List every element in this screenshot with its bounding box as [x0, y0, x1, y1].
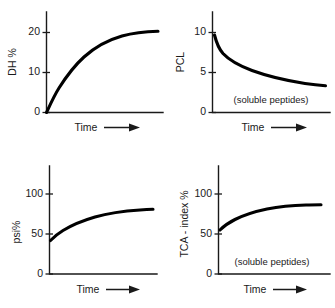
data-curve-dh [47, 31, 159, 112]
x-axis-title-pcl: Time [242, 121, 265, 133]
y-axis-title-tca: TCA - index % [178, 190, 190, 257]
y-axis-title-psi: psi% [10, 221, 22, 244]
y-tick-label: 0 [34, 105, 40, 117]
y-tick-label: 10 [28, 65, 40, 77]
y-tick-label: 100 [194, 187, 212, 199]
y-tick-label: 5 [200, 65, 206, 77]
chart-panel-dh: 0 10 20 DH % Time [0, 0, 167, 154]
chart-svg-dh: 0 10 20 DH % Time [0, 0, 167, 154]
chart-panel-tca: 0 50 100 TCA - index % (soluble peptides… [168, 154, 335, 308]
x-axis-arrow-pcl [271, 124, 307, 132]
y-tick-label: 0 [206, 267, 212, 279]
chart-svg-psi: 0 50 100 psi% Time [0, 154, 167, 308]
chart-panel-pcl: 0 5 10 PCL (soluble peptides) Time [168, 0, 335, 154]
x-axis-title-psi: Time [77, 283, 100, 295]
y-tick-label: 0 [200, 105, 206, 117]
x-axis-arrow-tca [273, 286, 307, 294]
chart-svg-tca: 0 50 100 TCA - index % (soluble peptides… [168, 154, 335, 308]
y-axis-title-dh: DH % [6, 48, 18, 75]
figure-panel-grid: 0 10 20 DH % Time 0 5 10 PCL (so [0, 0, 335, 308]
y-axis-title-pcl: PCL [174, 52, 186, 73]
axes-dh [47, 12, 164, 113]
axes-psi [50, 166, 158, 274]
chart-panel-psi: 0 50 100 psi% Time [0, 154, 167, 308]
panel-annotation-pcl: (soluble peptides) [234, 94, 309, 105]
data-curve-pcl [215, 35, 326, 86]
y-tick-label: 50 [200, 227, 212, 239]
x-axis-title-tca: Time [244, 283, 267, 295]
x-axis-arrow-psi [106, 286, 140, 294]
y-tick-label: 10 [194, 25, 206, 37]
y-tick-label: 20 [28, 25, 40, 37]
y-tick-label: 100 [25, 187, 43, 199]
data-curve-psi [51, 209, 154, 240]
x-axis-title-dh: Time [75, 121, 98, 133]
panel-annotation-tca: (soluble peptides) [235, 256, 310, 267]
y-tick-label: 0 [37, 267, 43, 279]
y-tick-label: 50 [31, 227, 43, 239]
x-axis-arrow-dh [104, 124, 140, 132]
data-curve-tca [220, 205, 321, 230]
chart-svg-pcl: 0 5 10 PCL (soluble peptides) Time [168, 0, 335, 154]
